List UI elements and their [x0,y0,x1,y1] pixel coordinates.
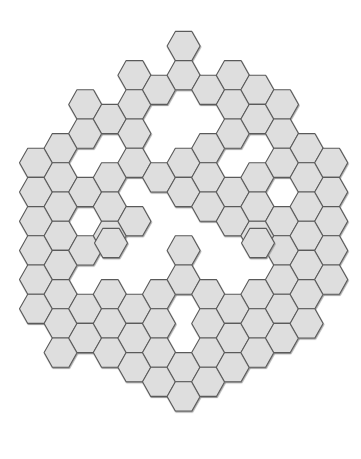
hexagon-tiling-svg [0,0,361,459]
hexagon-artwork-canvas [0,0,361,459]
